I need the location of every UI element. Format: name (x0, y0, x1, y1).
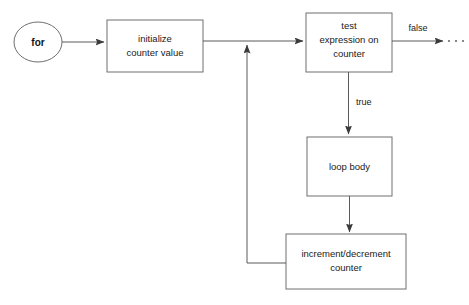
start-node-label: for (31, 37, 44, 48)
process-node-initialize (107, 20, 203, 72)
continuation-dot-3 (462, 40, 464, 42)
test-label-line2: expression on (319, 34, 378, 45)
flowchart-canvas: for initialize counter value test expres… (0, 0, 469, 305)
edge-increment-feedback-to-test (247, 45, 286, 263)
loop-body-label: loop body (329, 161, 370, 172)
flowchart-svg: for initialize counter value test expres… (0, 0, 469, 305)
increment-label-line2: counter (330, 262, 362, 273)
increment-label-line1: increment/decrement (301, 248, 391, 259)
initialize-label-line1: initialize (138, 33, 172, 44)
test-label-line3: counter (333, 48, 365, 59)
initialize-label-line2: counter value (126, 47, 183, 58)
continuation-dot-2 (455, 40, 457, 42)
edge-label-true: true (356, 97, 372, 107)
test-label-line1: test (341, 20, 357, 31)
continuation-dot-1 (448, 40, 450, 42)
edge-label-false: false (408, 23, 427, 33)
